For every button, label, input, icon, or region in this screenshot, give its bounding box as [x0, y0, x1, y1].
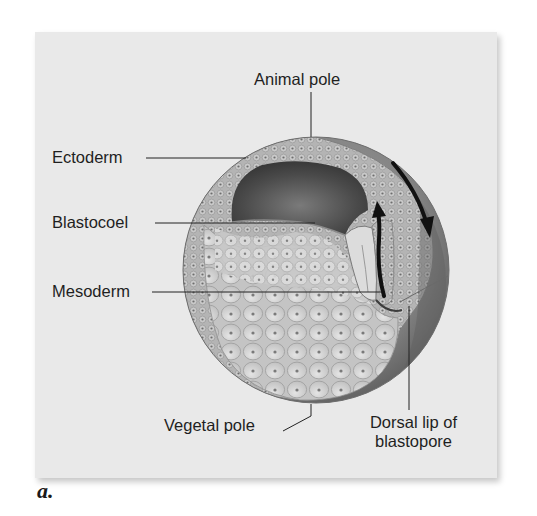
label-vegetal-pole: Vegetal pole — [164, 416, 255, 435]
figure-panel-letter: a. — [37, 478, 54, 504]
label-mesoderm: Mesoderm — [52, 282, 130, 301]
label-dorsal-lip: Dorsal lip of blastopore — [356, 413, 471, 451]
leader-vegetal-pole — [283, 404, 311, 431]
label-blastocoel: Blastocoel — [52, 213, 128, 232]
label-dorsal-lip-line2: blastopore — [356, 432, 471, 451]
label-ectoderm: Ectoderm — [52, 148, 123, 167]
label-animal-pole: Animal pole — [254, 70, 340, 89]
label-dorsal-lip-line1: Dorsal lip of — [356, 413, 471, 432]
